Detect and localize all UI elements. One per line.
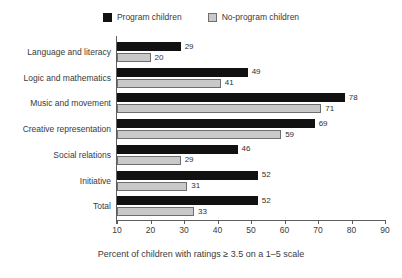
- bar-value-label: 33: [198, 208, 207, 216]
- x-axis-tick: [251, 220, 252, 224]
- bar-value-label: 52: [262, 197, 271, 205]
- bar-value-label: 52: [262, 171, 271, 179]
- bar-rows: 2920494178716959462952315233: [117, 40, 385, 220]
- bar-row: 7871: [117, 91, 385, 117]
- bar-program: [117, 145, 238, 154]
- category-label: Creative representation: [0, 125, 111, 134]
- bar-program: [117, 119, 315, 128]
- bar-value-label: 20: [155, 54, 164, 62]
- bar-program: [117, 171, 258, 180]
- x-axis-tick-label: 60: [280, 226, 289, 235]
- bar-row: 5231: [117, 169, 385, 195]
- bar-group-noprogram: 41: [117, 79, 234, 88]
- category-axis-labels: Language and literacyLogic and mathemati…: [0, 40, 111, 220]
- x-axis-tick: [151, 220, 152, 224]
- x-axis-tick: [385, 220, 386, 224]
- x-axis-tick: [318, 220, 319, 224]
- bar-group-program: 78: [117, 93, 358, 102]
- bar-group-program: 52: [117, 171, 271, 180]
- bar-value-label: 71: [325, 105, 334, 113]
- bar-value-label: 69: [319, 120, 328, 128]
- bar-group-noprogram: 20: [117, 53, 163, 62]
- category-label: Initiative: [0, 177, 111, 186]
- bar-row: 4941: [117, 66, 385, 92]
- bar-value-label: 29: [185, 156, 194, 164]
- legend-swatch-no-program-icon: [208, 13, 217, 22]
- bar-group-program: 29: [117, 42, 194, 51]
- bar-value-label: 41: [225, 79, 234, 87]
- bar-group-noprogram: 31: [117, 182, 200, 191]
- x-axis-tick-label: 30: [179, 226, 188, 235]
- bar-row: 4629: [117, 143, 385, 169]
- category-label: Total: [0, 202, 111, 211]
- bar-row: 2920: [117, 40, 385, 66]
- x-axis-tick-label: 20: [146, 226, 155, 235]
- bar-program: [117, 42, 181, 51]
- bar-value-label: 46: [242, 145, 251, 153]
- bar-group-noprogram: 71: [117, 104, 334, 113]
- bar-group-noprogram: 29: [117, 156, 194, 165]
- bar-noprogram: [117, 182, 187, 191]
- bar-value-label: 49: [252, 68, 261, 76]
- x-axis-tick: [184, 220, 185, 224]
- bar-noprogram: [117, 207, 194, 216]
- bar-program: [117, 68, 248, 77]
- bar-value-label: 59: [285, 131, 294, 139]
- legend-label-no-program: No-program children: [222, 13, 299, 22]
- legend-swatch-program-icon: [103, 13, 112, 22]
- category-label: Music and movement: [0, 99, 111, 108]
- bar-group-program: 49: [117, 68, 261, 77]
- x-axis-tick-label: 10: [112, 226, 121, 235]
- bar-program: [117, 93, 345, 102]
- bar-value-label: 78: [349, 94, 358, 102]
- bar-value-label: 29: [185, 43, 194, 51]
- x-axis-tick: [285, 220, 286, 224]
- bar-group-noprogram: 33: [117, 207, 207, 216]
- x-axis-tick: [218, 220, 219, 224]
- x-axis-line: 102030405060708090: [117, 220, 385, 221]
- bar-group-noprogram: 59: [117, 130, 294, 139]
- chart-legend: Program children No-program children: [0, 13, 402, 22]
- bar-chart: Program children No-program children Lan…: [0, 0, 402, 278]
- bar-value-label: 31: [191, 182, 200, 190]
- x-axis-tick-label: 50: [246, 226, 255, 235]
- x-axis-caption: Percent of children with ratings ≥ 3.5 o…: [0, 250, 402, 259]
- bar-program: [117, 196, 258, 205]
- category-label: Language and literacy: [0, 48, 111, 57]
- x-axis-tick-label: 80: [347, 226, 356, 235]
- bar-group-program: 46: [117, 145, 251, 154]
- bar-noprogram: [117, 53, 151, 62]
- x-axis-tick: [352, 220, 353, 224]
- x-axis-tick-label: 70: [313, 226, 322, 235]
- plot-area: 2920494178716959462952315233: [117, 40, 385, 220]
- bar-noprogram: [117, 156, 181, 165]
- bar-noprogram: [117, 130, 281, 139]
- bar-noprogram: [117, 104, 321, 113]
- bar-row: 6959: [117, 117, 385, 143]
- bar-row: 5233: [117, 194, 385, 220]
- bar-group-program: 52: [117, 196, 271, 205]
- legend-item-no-program: No-program children: [208, 13, 299, 22]
- category-label: Logic and mathematics: [0, 74, 111, 83]
- x-axis-tick-label: 40: [213, 226, 222, 235]
- x-axis-tick: [117, 220, 118, 224]
- legend-label-program: Program children: [117, 13, 182, 22]
- legend-item-program: Program children: [103, 13, 182, 22]
- bar-noprogram: [117, 79, 221, 88]
- x-axis-tick-label: 90: [380, 226, 389, 235]
- bar-group-program: 69: [117, 119, 328, 128]
- category-label: Social relations: [0, 151, 111, 160]
